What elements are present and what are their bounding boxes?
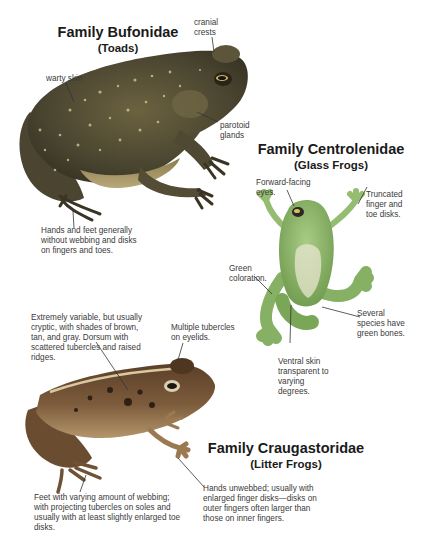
label-litter-feet: Feet with varying amount of webbing; wit… [34,493,184,533]
label-truncated-disks: Truncated finger and toe disks. [366,190,416,220]
bufonidae-common-name: (Toads) [28,41,208,55]
craugastoridae-common-name: (Litter Frogs) [196,457,376,471]
glass-frog-illustration [260,191,368,340]
label-dorsum-variability: Extremely variable, but usually cryptic,… [31,313,151,363]
label-litter-hands: Hands unwebbed; usually with enlarged fi… [203,484,321,524]
toad-illustration [20,45,248,220]
label-green-coloration: Green coloration. [229,264,269,284]
bufonidae-family-name: Family Bufonidae [58,24,179,40]
centrolenidae-common-name: (Glass Frogs) [246,158,416,172]
label-parotoid-glands: parotoid glands [220,121,260,141]
craugastoridae-family-name: Family Craugastoridae [208,440,364,456]
label-cranial-crests: cranial crests [194,18,234,38]
label-warty-skin: warty skin [46,74,106,84]
bufonidae-title: Family Bufonidae (Toads) [28,24,208,55]
label-green-bones: Several species have green bones. [357,309,409,339]
centrolenidae-family-name: Family Centrolenidae [258,141,405,157]
label-eyelid-tubercles: Multiple tubercles on eyelids. [171,323,239,343]
craugastoridae-title: Family Craugastoridae (Litter Frogs) [196,440,376,471]
label-forward-facing-eyes: Forward-facing eyes. [256,178,312,198]
label-toad-hands-feet: Hands and feet generally without webbing… [41,226,141,256]
centrolenidae-title: Family Centrolenidae (Glass Frogs) [246,141,416,172]
label-ventral-skin: Ventral skin transparent to varying degr… [278,357,338,397]
